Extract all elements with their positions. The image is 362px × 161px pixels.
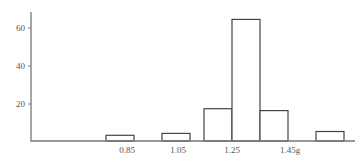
x-tick-label: 1.45g	[280, 145, 301, 155]
histogram-bar	[260, 111, 288, 141]
bars-group	[106, 19, 344, 141]
y-tick-label: 40	[16, 61, 26, 71]
histogram-bar	[162, 133, 190, 141]
y-tick-label: 20	[16, 99, 26, 109]
axes	[31, 12, 355, 141]
y-tick-label: 60	[16, 23, 26, 33]
x-tick-label: 1.05	[170, 145, 186, 155]
y-axis-ticks: 20 40 60	[16, 23, 31, 109]
x-axis-labels: 0.85 1.05 1.25 1.45g	[119, 145, 301, 155]
histogram-bar	[204, 109, 232, 141]
x-tick-label: 1.25	[224, 145, 240, 155]
histogram-chart: 20 40 60 0.85 1.05 1.25 1.45g	[0, 0, 362, 161]
histogram-bar	[106, 135, 134, 141]
histogram-bar	[232, 19, 260, 141]
x-tick-label: 0.85	[119, 145, 135, 155]
histogram-bar	[316, 132, 344, 142]
